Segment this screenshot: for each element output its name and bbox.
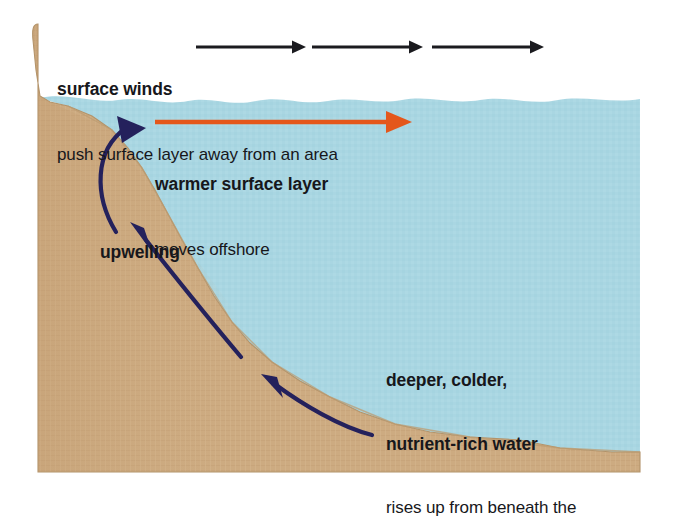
upwelling-label-bold: upwelling (100, 242, 180, 263)
deep-cold-water-label: deeper, colder, nutrient-rich water rise… (386, 327, 593, 523)
wind-arrow-3 (432, 41, 544, 54)
surface-winds-label-bold: surface winds (57, 79, 338, 100)
warmer-surface-layer-label: warmer surface layer moves offshore (155, 131, 328, 303)
warmer-surface-layer-label-regular: moves offshore (155, 240, 328, 261)
deep-cold-water-label-bold-1: deeper, colder, (386, 370, 593, 391)
warmer-surface-layer-label-bold: warmer surface layer (155, 174, 328, 195)
upwelling-diagram: surface winds push surface layer away fr… (0, 0, 678, 523)
deep-cold-water-label-regular-1: rises up from beneath the (386, 498, 593, 519)
deep-cold-water-label-bold-2: nutrient-rich water (386, 434, 593, 455)
upwelling-label: upwelling (100, 199, 180, 306)
